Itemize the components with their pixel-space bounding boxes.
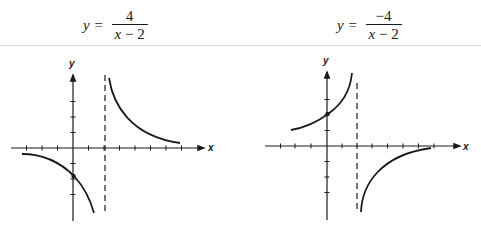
graph-right: y x [265, 55, 469, 220]
curve-right-branch [361, 148, 431, 212]
y-axis-label: y [322, 55, 329, 66]
curve-right-branch [109, 78, 180, 143]
x-axis-label: x [462, 141, 469, 152]
y-intercept-point [325, 112, 329, 116]
y-axis-label: y [68, 58, 75, 69]
x-axis-label: x [207, 142, 214, 153]
graph-left: y x [11, 58, 214, 221]
curve-left-branch [291, 73, 352, 130]
graphs: y x y x [0, 0, 481, 229]
y-intercept-point [71, 174, 75, 178]
curve-left-branch [22, 154, 94, 213]
